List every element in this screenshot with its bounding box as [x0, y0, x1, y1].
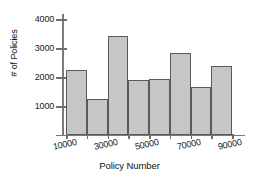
bar-bin-5: [149, 79, 170, 135]
x-tick-80000: [211, 134, 213, 139]
x-tick-label-10000: 10000: [52, 137, 78, 152]
y-tick-label-1000: 1000: [20, 101, 54, 111]
chart-screenshot: 4000 3000 2000 1000 10000 30000: [0, 0, 259, 177]
bar-bin-3: [108, 36, 129, 135]
bar-bin-1: [66, 70, 87, 135]
bar-bin-6: [170, 53, 191, 135]
x-tick-60000: [170, 134, 172, 139]
x-tick-label-70000: 70000: [176, 137, 202, 152]
bar-bin-7: [191, 87, 212, 135]
y-axis-title: # of Policies: [9, 21, 19, 85]
x-tick-label-90000: 90000: [217, 137, 243, 152]
x-tick-40000: [128, 134, 130, 139]
bar-bin-8: [211, 66, 232, 135]
y-tick-label-2000: 2000: [20, 72, 54, 82]
y-tick-label-4000: 4000: [20, 14, 54, 24]
x-tick-label-50000: 50000: [134, 137, 160, 152]
bar-bin-4: [128, 80, 149, 135]
x-tick-20000: [87, 134, 89, 139]
y-axis-line: [62, 14, 64, 136]
x-tick-label-30000: 30000: [93, 137, 119, 152]
y-tick-label-3000: 3000: [20, 43, 54, 53]
y-tick-4000: [56, 19, 67, 21]
x-axis-title: Policy Number: [0, 160, 259, 171]
histogram-plot: 4000 3000 2000 1000 10000 30000: [0, 0, 259, 177]
bar-bin-2: [87, 99, 108, 135]
y-tick-3000: [56, 48, 67, 50]
